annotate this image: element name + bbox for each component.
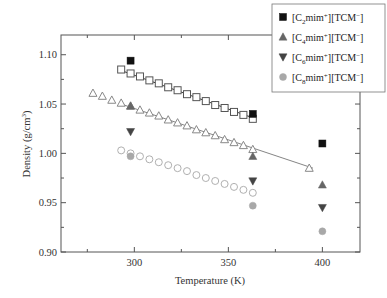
open-circle-marker — [183, 168, 190, 175]
open-circle-marker — [118, 147, 125, 154]
open-triangle-up-marker — [239, 141, 247, 148]
open-triangle-up-marker — [230, 138, 238, 145]
open-circle-marker — [221, 180, 228, 187]
filled-circle-marker — [249, 202, 256, 209]
open-triangle-up-marker — [98, 92, 106, 99]
open-triangle-up-marker — [192, 126, 200, 133]
filled-triangle-down-marker — [127, 129, 135, 136]
open-circle-marker — [146, 156, 153, 163]
open-square-marker — [240, 111, 247, 118]
open-square-marker — [221, 104, 228, 111]
density-chart: 3003504000.900.951.001.051.10 Temperatur… — [0, 0, 387, 298]
y-axis-label-main: Density (g/cm — [21, 118, 33, 178]
open-square-marker — [136, 73, 143, 80]
open-circle-marker — [231, 183, 238, 190]
open-square-marker — [212, 102, 219, 109]
filled-square-marker — [319, 140, 326, 147]
open-triangle-up-marker — [164, 116, 172, 123]
open-triangle-up-marker — [211, 131, 219, 138]
open-square-marker — [127, 70, 134, 77]
y-axis-label: Density (g/cm3) — [20, 110, 33, 177]
open-circle-marker — [155, 159, 162, 166]
filled-square-marker — [249, 110, 256, 117]
y-tick-label: 1.05 — [39, 99, 57, 110]
y-tick-label: 0.95 — [39, 197, 57, 208]
open-square-marker — [155, 80, 162, 87]
filled-circle-marker — [319, 228, 326, 235]
y-axis-label-close: ) — [21, 110, 33, 114]
open-circle-marker — [202, 175, 209, 182]
open-circle-marker — [165, 162, 172, 169]
filled-circle-marker — [127, 153, 134, 160]
filled-triangle-down-marker — [318, 204, 326, 211]
open-square-marker — [165, 84, 172, 91]
y-tick-label: 1.10 — [39, 49, 57, 60]
y-tick-label: 1.00 — [39, 148, 57, 159]
open-triangle-up-marker — [202, 129, 210, 136]
open-square-marker — [231, 108, 238, 115]
x-tick-label: 300 — [126, 257, 142, 268]
open-circle-marker — [174, 165, 181, 172]
open-square-marker — [118, 66, 125, 73]
filled-triangle-up-marker — [127, 102, 135, 109]
x-axis-label: Temperature (K) — [175, 275, 246, 287]
open-triangle-up-marker — [117, 99, 125, 106]
open-circle-marker — [249, 189, 256, 196]
open-square-marker — [183, 91, 190, 98]
filled-triangle-down-marker — [249, 178, 257, 185]
open-circle-marker — [240, 186, 247, 193]
x-tick-label: 350 — [220, 257, 236, 268]
filled-triangle-up-marker — [249, 152, 257, 159]
filled-square-marker — [127, 57, 134, 64]
filled-triangle-up-marker — [318, 181, 326, 188]
open-triangle-up-marker — [89, 89, 97, 96]
x-tick-label: 400 — [315, 257, 331, 268]
open-circle-marker — [212, 177, 219, 184]
open-circle-marker — [193, 172, 200, 179]
legend-square-icon — [280, 14, 287, 21]
open-square-marker — [202, 98, 209, 105]
open-triangle-up-marker — [221, 135, 229, 142]
open-triangle-up-marker — [108, 96, 116, 103]
legend: [C2mim+][TCM−][C4mim+][TCM−][C6mim+][TCM… — [272, 4, 385, 92]
legend-circle-icon — [280, 74, 287, 81]
y-tick-label: 0.90 — [39, 247, 57, 258]
open-square-marker — [146, 77, 153, 84]
open-square-marker — [174, 87, 181, 94]
open-circle-marker — [136, 153, 143, 160]
open-square-marker — [193, 94, 200, 101]
